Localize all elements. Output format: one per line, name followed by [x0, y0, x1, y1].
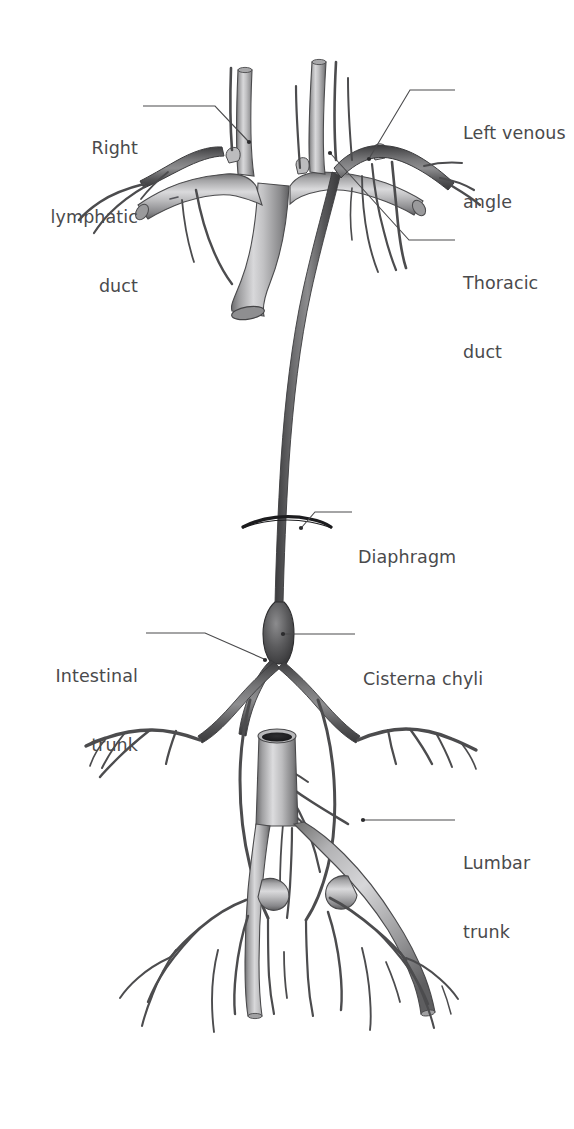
left-brachiocephalic-vein [290, 172, 423, 215]
label-intestinal-trunk: Intestinal trunk [28, 619, 138, 803]
right-descending-lymph-chain-1 [196, 190, 232, 284]
leader-dot-intestinal-trunk [263, 658, 267, 662]
pelvic-lymph-right-6 [306, 920, 313, 1016]
leader-dot-lumbar-trunk [361, 818, 365, 822]
pelvic-lymph-right-8 [386, 962, 400, 1002]
leader-dot-thoracic-duct [328, 151, 332, 155]
thoracic-duct [275, 172, 340, 604]
label-intestinal-trunk-line1: Intestinal [28, 665, 138, 688]
lumbar-chain-left-branch-3 [166, 731, 176, 764]
pelvic-lymph-left-6 [268, 918, 274, 1014]
leader-dot-diaphragm [299, 526, 303, 530]
label-intestinal-trunk-line2: trunk [28, 734, 138, 757]
label-thoracic-duct: Thoracic duct [463, 226, 573, 410]
left-descending-lymph-chain-4 [351, 188, 353, 240]
label-thoracic-duct-line2: duct [463, 341, 573, 364]
left-internal-iliac-stump [258, 878, 289, 910]
great-veins-group [133, 59, 429, 321]
leader-dot-cisterna-chyli [281, 632, 285, 636]
midline-small-vein-stump [296, 158, 309, 174]
label-lumbar-trunk-line1: Lumbar [463, 852, 573, 875]
label-right-lymphatic-duct: Right lymphatic duct [18, 91, 138, 344]
diaphragm-outline [243, 517, 331, 527]
pelvic-lymph-left-7 [212, 950, 218, 1032]
pelvic-lymphatics-group [120, 898, 458, 1032]
leader-intestinal-trunk [146, 633, 264, 659]
midline-lymph-trunk [296, 86, 300, 168]
left-jugular-cut-end [312, 59, 326, 64]
pelvic-lymph-right-5 [328, 912, 342, 1010]
presacral-lymph-midline-2 [280, 824, 283, 888]
label-left-venous-angle-line1: Left venous [463, 122, 573, 145]
left-descending-lymph-chain-1 [392, 162, 406, 268]
ivc-lumen [262, 732, 292, 741]
right-jugular-cut-end [238, 67, 252, 72]
leader-dot-right-lymphatic-duct [247, 140, 251, 144]
cisterna-chyli [263, 602, 294, 664]
label-thoracic-duct-line1: Thoracic [463, 272, 573, 295]
leader-dot-left-venous-angle [367, 157, 371, 161]
inferior-vena-cava [256, 736, 298, 826]
label-right-lymphatic-duct-line3: duct [18, 275, 138, 298]
label-right-lymphatic-duct-line1: Right [18, 137, 138, 160]
right-descending-lymph-chain-2 [182, 200, 194, 262]
pelvic-lymph-left-8 [284, 952, 287, 998]
presacral-lymph-midline [287, 828, 292, 918]
label-diaphragm-line1: Diaphragm [358, 546, 498, 569]
pelvic-lymph-right-7 [362, 948, 371, 1030]
left-common-iliac-vein [245, 824, 270, 1016]
label-cisterna-chyli: Cisterna chyli [363, 622, 523, 737]
anatomical-figure: Right lymphatic duct Left venous angle T… [0, 0, 574, 1129]
label-lumbar-trunk: Lumbar trunk [463, 806, 573, 990]
label-diaphragm: Diaphragm [358, 500, 498, 615]
label-lumbar-trunk-line2: trunk [463, 921, 573, 944]
label-right-lymphatic-duct-line2: lymphatic [18, 206, 138, 229]
left-iliac-cut-end [248, 1013, 262, 1018]
left-internal-jugular-vein [309, 62, 326, 174]
right-jugular-lymph-trunk [230, 68, 232, 150]
label-left-venous-angle-line2: angle [463, 191, 573, 214]
pelvic-lymph-left-4 [120, 957, 171, 998]
label-cisterna-chyli-line1: Cisterna chyli [363, 668, 523, 691]
pelvic-lymph-right-9 [442, 986, 451, 1014]
left-jugular-lymph-trunk-2 [348, 78, 352, 160]
left-jugular-lymph-trunk [335, 62, 337, 160]
